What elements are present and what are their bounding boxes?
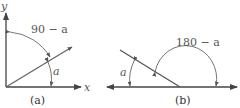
vector-line [6,47,72,87]
y-axis-label: y [0,0,8,13]
angle-label-upper: 180 − a [176,36,220,49]
arc-a [48,62,52,86]
x-axis-label: x [84,81,91,94]
panel-a: y x 90 − a a (a) [0,0,91,107]
angle-label-lower: a [120,66,127,79]
arc-a [130,61,134,86]
angle-label-upper: 90 − a [31,23,68,36]
caption-a: (a) [30,94,45,107]
angle-label-lower: a [53,65,60,78]
caption-b: (b) [175,94,191,107]
arc-180-minus-a [155,46,217,86]
panel-b: a 180 − a (b) [107,36,237,107]
angle-diagram: y x 90 − a a (a) a 180 − a (b) [0,0,240,108]
vector-line [120,50,180,87]
